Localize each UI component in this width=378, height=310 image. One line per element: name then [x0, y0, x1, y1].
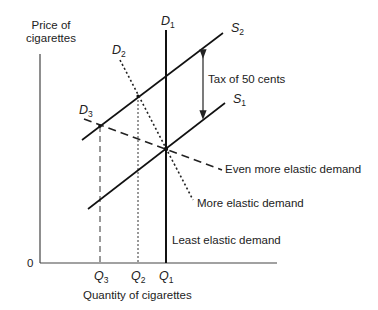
tax-incidence-diagram: Price of cigarettes 0 Quantity of cigare… [0, 0, 378, 310]
d2-line [120, 60, 193, 200]
q2-label: Q2 [131, 270, 145, 287]
s2-line [82, 33, 223, 140]
d2-s2-point [136, 94, 139, 97]
tax-label: Tax of 50 cents [208, 73, 285, 86]
d1-label: D1 [161, 15, 175, 32]
diagram-canvas [0, 0, 378, 310]
s2-label: S2 [231, 22, 244, 39]
x-axis-title: Quantity of cigarettes [83, 289, 192, 302]
equilibrium-point [164, 147, 168, 151]
even-more-elastic-label: Even more elastic demand [225, 163, 361, 176]
y-axis-title: Price of cigarettes [22, 19, 80, 45]
y-title-line1: Price of [22, 19, 80, 32]
more-elastic-label: More elastic demand [197, 197, 304, 210]
origin-label: 0 [27, 257, 33, 270]
d2-label: D2 [112, 44, 126, 61]
least-elastic-label: Least elastic demand [172, 234, 281, 247]
y-title-line2: cigarettes [22, 32, 80, 45]
q1-label: Q1 [159, 270, 173, 287]
s1-label: S1 [233, 93, 246, 110]
q3-label: Q3 [94, 270, 108, 287]
d3-line [84, 119, 222, 170]
d3-label: D3 [79, 104, 93, 121]
d3-s2-point [98, 124, 102, 128]
